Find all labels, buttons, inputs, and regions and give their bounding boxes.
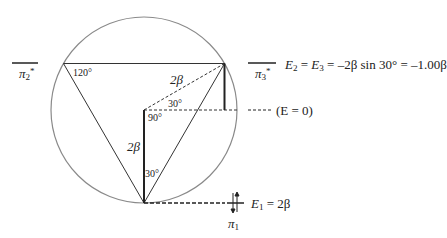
radius-label-vert: 2β <box>127 140 140 153</box>
pi3-label: π3* <box>255 67 271 82</box>
angle-120: 120° <box>73 68 92 78</box>
pi2-label: π2* <box>19 67 35 82</box>
pi1-label: π1 <box>228 217 239 232</box>
equation-zero: (E = 0) <box>276 104 313 117</box>
equation-e2-e3: E2 = E3 = –2β sin 30° = –1.00β <box>285 58 447 73</box>
equation-e1: E1 = 2β <box>251 197 290 212</box>
radius-label-diag: 2β <box>170 73 183 86</box>
angle-30-bottom: 30° <box>145 169 159 179</box>
angle-30-center: 30° <box>168 99 182 109</box>
angle-90: 90° <box>148 113 162 123</box>
dashed-radius <box>144 64 225 111</box>
